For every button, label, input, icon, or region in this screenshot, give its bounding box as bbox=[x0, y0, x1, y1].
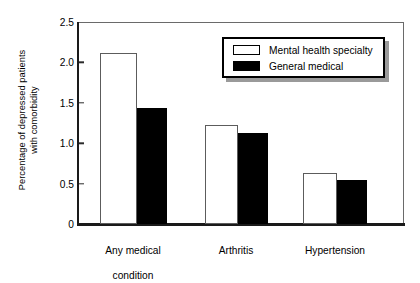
legend-entry-general-medical: General medical bbox=[233, 58, 383, 74]
legend-label-1: General medical bbox=[269, 61, 343, 72]
y-tick-label-1: 0.5 bbox=[34, 178, 74, 189]
bar-general-medical-0 bbox=[137, 108, 167, 224]
legend-box: Mental health specialty General medical bbox=[222, 37, 385, 78]
y-axis-title-line1: Percentage of depressed patients bbox=[16, 20, 28, 220]
y-tick-label-5: 2.5 bbox=[34, 17, 74, 28]
x-category-label-0-line1: Any medical bbox=[78, 245, 188, 258]
y-tick-label-2: 1.0 bbox=[34, 138, 74, 149]
y-tick-label-3: 1.5 bbox=[34, 97, 74, 108]
y-axis-tick-labels: 0 0.5 1.0 1.5 2.0 2.5 bbox=[30, 0, 74, 270]
legend-swatch-filled-icon bbox=[233, 61, 260, 71]
x-category-label-2: Hypertension bbox=[275, 232, 395, 270]
x-category-label-2-line1: Hypertension bbox=[275, 245, 395, 258]
legend-entry-mental-health-specialty: Mental health specialty bbox=[233, 42, 383, 58]
bar-general-medical-1 bbox=[238, 133, 268, 224]
legend-swatch-open-icon bbox=[233, 45, 260, 55]
y-tick-label-4: 2.0 bbox=[34, 57, 74, 68]
bar-mental-health-specialty-0 bbox=[100, 53, 137, 224]
legend-label-0: Mental health specialty bbox=[269, 45, 373, 56]
x-category-label-0-line2: condition bbox=[78, 270, 188, 283]
x-category-label-0: Any medical condition bbox=[78, 232, 188, 283]
bar-mental-health-specialty-2 bbox=[303, 173, 337, 224]
bar-general-medical-2 bbox=[337, 180, 367, 224]
y-tick-label-0: 0 bbox=[34, 219, 74, 230]
bar-mental-health-specialty-1 bbox=[205, 125, 238, 224]
